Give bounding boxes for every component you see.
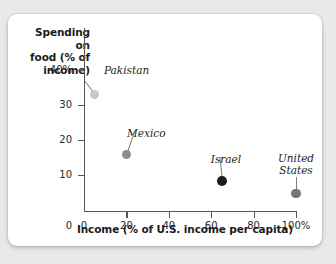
y-tick-label-40: 40% — [26, 64, 72, 75]
y-tick-mark-10 — [78, 175, 85, 176]
data-point-pakistan[interactable] — [90, 90, 99, 99]
x-tick-mark-60 — [211, 211, 212, 218]
data-label-israel: Israel — [201, 153, 251, 165]
x-tick-mark-100 — [296, 211, 297, 218]
x-axis-line — [84, 211, 296, 212]
scatter-plot: Spending on food (% of income) 40% 30 20… — [8, 14, 322, 246]
y-axis-title-line-2: food (% of — [26, 51, 90, 64]
data-label-mexico: Mexico — [127, 127, 165, 139]
y-tick-label-20: 20 — [26, 134, 72, 145]
y-axis-line — [84, 28, 85, 211]
y-tick-mark-40 — [78, 70, 85, 71]
data-label-united-states-line-2: States — [279, 164, 313, 176]
data-label-united-states-line-1: United — [278, 152, 314, 164]
y-tick-label-30: 30 — [26, 99, 72, 110]
x-axis-title: Income (% of U.S. income per capita) — [60, 223, 310, 235]
data-label-united-states: UnitedStates — [271, 152, 321, 176]
data-point-united-states[interactable] — [291, 189, 301, 199]
y-tick-mark-30 — [78, 105, 85, 106]
y-axis-title-line-1: Spending on — [26, 26, 90, 51]
x-tick-mark-80 — [254, 211, 255, 218]
x-tick-mark-40 — [169, 211, 170, 218]
y-tick-mark-20 — [78, 140, 85, 141]
x-tick-mark-20 — [126, 211, 127, 218]
data-point-israel[interactable] — [217, 176, 227, 186]
data-label-pakistan: Pakistan — [104, 64, 149, 76]
data-point-mexico[interactable] — [122, 150, 131, 159]
y-tick-label-10: 10 — [26, 169, 72, 180]
figure-card: Spending on food (% of income) 40% 30 20… — [8, 14, 322, 246]
